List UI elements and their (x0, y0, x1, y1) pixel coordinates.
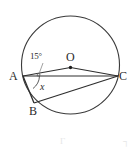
angle-leader-15 (40, 63, 44, 73)
segment-OC (71, 68, 119, 77)
circle-outline (22, 16, 120, 114)
center-point-dot (69, 66, 72, 69)
point-label-A: A (9, 70, 18, 82)
segment-AB (23, 76, 34, 103)
faint-bracket-left-icon: Γ (60, 136, 65, 146)
point-label-C: C (119, 70, 127, 82)
angle-mark-OAC (37, 74, 40, 77)
faint-bracket-right-icon: ┐ (123, 136, 129, 146)
geometry-svg (0, 0, 136, 150)
angle-label-x: x (40, 82, 44, 92)
point-label-O: O (66, 51, 75, 63)
angle-label-15-degrees: 15° (30, 52, 42, 61)
angle-arc-BAC (33, 76, 40, 88)
point-label-B: B (29, 105, 37, 117)
geometry-figure: A B C O 15° x Γ ┐ (0, 0, 136, 150)
segment-AO (23, 68, 71, 77)
